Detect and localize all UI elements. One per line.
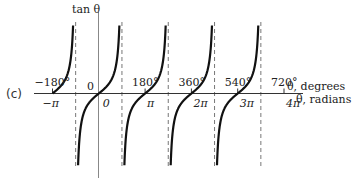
radian-tick-label: π [146, 97, 155, 110]
tangent-branch [171, 25, 212, 165]
radian-tick-label: 0 [103, 97, 110, 110]
y-axis-label-text: tan θ [72, 3, 101, 16]
tangent-branch [124, 25, 165, 165]
tangent-chart: (c) tan θ 0 θ, degrees θ, radians −180°1… [0, 0, 355, 182]
y-axis-label: tan θ [72, 3, 101, 16]
panel-label: (c) [6, 87, 22, 101]
radian-tick-label: 3π [240, 97, 255, 110]
degree-tick-label: −180° [35, 76, 71, 89]
degree-tick-label: 720° [271, 76, 298, 89]
degree-tick-label: 360° [178, 76, 205, 89]
asymptote-lines [76, 22, 261, 168]
radian-tick-labels: −π0π2π3π4π [43, 97, 301, 110]
radian-tick-label: 4π [285, 97, 301, 110]
radian-tick-label: −π [43, 97, 60, 110]
radian-tick-label: 2π [192, 97, 208, 110]
origin-label: 0 [87, 80, 94, 93]
x-axis-label-radians: θ, radians [296, 93, 352, 106]
degree-tick-label: 540° [225, 76, 252, 89]
degree-tick-labels: −180°180°360°540°720° [35, 76, 298, 89]
tangent-curves [53, 25, 259, 165]
degree-tick-label: 180° [132, 76, 159, 89]
tangent-branch [217, 25, 258, 165]
labels: (c) tan θ 0 θ, degrees θ, radians [6, 3, 352, 106]
